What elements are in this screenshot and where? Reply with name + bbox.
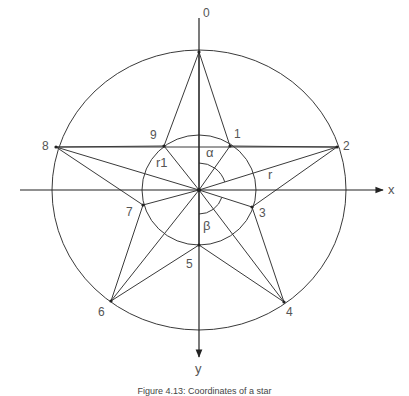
axes (20, 18, 383, 357)
point-label-1: 1 (234, 128, 241, 140)
x-axis-label: x (388, 183, 395, 196)
vertex-dot-2 (335, 145, 338, 148)
spoke-line (199, 190, 284, 302)
vertex-dot-5 (197, 243, 200, 246)
star-edge (111, 205, 143, 301)
spoke-line (199, 190, 252, 207)
vertex-dot-9 (162, 144, 165, 147)
point-label-9: 9 (150, 129, 157, 141)
vertex-dot-7 (141, 203, 144, 206)
point-label-7: 7 (126, 206, 133, 218)
point-label-4: 4 (286, 306, 293, 318)
point-label-6: 6 (98, 306, 105, 318)
vertex-dot-8 (54, 145, 57, 148)
star-edge (56, 147, 143, 205)
alpha-label: α (206, 146, 214, 159)
vertex-dot-6 (109, 299, 112, 302)
point-label-0: 0 (203, 7, 210, 19)
spoke-line (143, 190, 199, 205)
star-lines (56, 52, 337, 302)
center-dot (197, 188, 201, 192)
vertex-dot-1 (228, 144, 231, 147)
point-label-2: 2 (343, 140, 350, 152)
r-label: r (268, 168, 272, 181)
r1-label: r1 (156, 156, 168, 169)
star-edge (164, 52, 199, 146)
beta-label: β (203, 219, 210, 232)
vertex-dot-0 (197, 50, 200, 53)
spoke-line (56, 147, 199, 190)
point-label-3: 3 (259, 207, 266, 219)
star-edge (252, 207, 284, 302)
vertex-dot-4 (282, 300, 285, 303)
y-axis-label: y (195, 362, 202, 375)
vertex-dots (54, 50, 338, 303)
figure-caption: Figure 4.13: Coordinates of a star (0, 386, 409, 396)
spoke-line (164, 146, 199, 190)
star-edge (111, 245, 199, 301)
star-edge (252, 147, 337, 207)
star-edge (199, 52, 230, 146)
spoke-line (111, 190, 199, 301)
star-edge (199, 245, 284, 302)
point-label-5: 5 (186, 258, 193, 270)
vertex-dot-3 (250, 205, 253, 208)
point-label-8: 8 (42, 140, 49, 152)
